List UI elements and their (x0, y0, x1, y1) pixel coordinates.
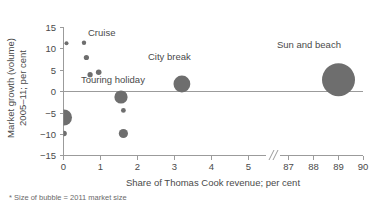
y-tick-label-neg5: −5 (45, 108, 56, 119)
bubble-7 (121, 108, 126, 113)
x-tick-label-87: 87 (283, 161, 294, 172)
y-tick-label-0: 0 (51, 86, 56, 97)
bubble-sun-and-beach (322, 63, 355, 96)
bubble-10 (61, 131, 67, 137)
x-tick-label-2: 2 (135, 161, 140, 172)
x-axis-title: Share of Thomas Cook revenue; per cent (126, 177, 300, 188)
y-tick-label-15: 15 (45, 22, 56, 33)
x-axis-break-icon (266, 150, 280, 161)
bubble-chart: Market growth (volume) 2005–11; per cent… (0, 0, 374, 206)
y-tick-label-10: 10 (45, 43, 56, 54)
y-tick-label-neg10: −10 (40, 129, 56, 140)
x-tick-label-0: 0 (61, 161, 66, 172)
chart-footnote: * Size of bubble = 2011 market size (9, 193, 127, 202)
x-tick-label-5: 5 (246, 161, 251, 172)
bubble-series (56, 41, 355, 138)
bubble-city-break (174, 76, 191, 93)
y-axis-ticks: 15 10 5 0 −5 −10 −15 (40, 22, 64, 161)
y-tick-label-neg15: −15 (40, 150, 56, 161)
bubble-8 (119, 129, 128, 138)
bubble-2 (82, 41, 86, 45)
bubble-3 (84, 55, 89, 60)
x-tick-label-4: 4 (209, 161, 214, 172)
y-tick-label-5: 5 (51, 65, 56, 76)
series-label-city-break: City break (148, 51, 191, 62)
x-tick-label-3: 3 (172, 161, 177, 172)
y-axis-title: Market growth (volume) 2005–11; per cent (5, 38, 28, 138)
y-axis-title-line1: Market growth (volume) (5, 38, 16, 138)
x-tick-label-90: 90 (358, 161, 369, 172)
x-tick-label-88: 88 (308, 161, 319, 172)
bubble-touring-holiday (114, 90, 127, 103)
bubble-1 (65, 41, 69, 45)
y-axis-title-line2: 2005–11; per cent (17, 50, 28, 126)
series-label-touring-holiday: Touring holiday (81, 74, 145, 85)
x-tick-label-89: 89 (333, 161, 344, 172)
x-axis-ticks: 0 1 2 3 4 5 87 88 89 90 (61, 156, 368, 173)
x-tick-label-1: 1 (98, 161, 103, 172)
chart-canvas: Market growth (volume) 2005–11; per cent… (0, 0, 374, 206)
series-label-sun-and-beach: Sun and beach (277, 39, 341, 50)
series-label-cruise: Cruise (88, 27, 115, 38)
bubble-9 (56, 110, 72, 126)
